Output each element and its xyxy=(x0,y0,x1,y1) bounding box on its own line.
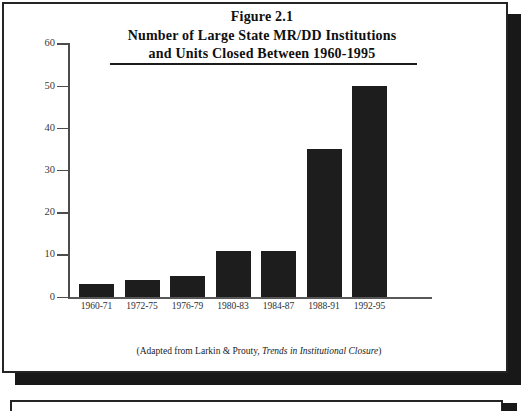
figure-2-2-shadow-corner xyxy=(502,403,517,411)
scanned-document-page: Figure 2.1 Number of Large State MR/DD I… xyxy=(0,0,523,411)
y-tick-60 xyxy=(57,43,69,45)
figure-2-1-frame: Figure 2.1 Number of Large State MR/DD I… xyxy=(2,2,508,373)
bar-1988-91 xyxy=(307,149,342,297)
x-label-1976-79: 1976-79 xyxy=(165,301,211,311)
x-label-1972-75: 1972-75 xyxy=(119,301,165,311)
bar-1992-95 xyxy=(352,86,387,297)
bar-1960-71 xyxy=(79,284,114,297)
caption-italic-title: Trends in Institutional Closure xyxy=(262,346,378,356)
y-tick-label-30: 30 xyxy=(25,164,55,175)
y-tick-10 xyxy=(57,254,69,256)
source-caption: (Adapted from Larkin & Prouty, Trends in… xyxy=(4,346,506,356)
bar-chart: 01020304050601960-711972-751976-791980-8… xyxy=(4,4,506,371)
y-tick-label-20: 20 xyxy=(25,206,55,217)
y-tick-label-40: 40 xyxy=(25,122,55,133)
y-tick-50 xyxy=(57,86,69,88)
x-label-1988-91: 1988-91 xyxy=(301,301,347,311)
caption-suffix: ) xyxy=(378,346,381,356)
x-label-1992-95: 1992-95 xyxy=(347,301,393,311)
y-tick-label-60: 60 xyxy=(25,37,55,48)
caption-prefix: (Adapted from Larkin & Prouty, xyxy=(137,346,263,356)
bar-1972-75 xyxy=(125,280,160,297)
bar-1980-83 xyxy=(216,251,251,297)
y-tick-20 xyxy=(57,212,69,214)
y-tick-0 xyxy=(57,297,69,299)
x-label-1980-83: 1980-83 xyxy=(210,301,256,311)
x-label-1984-87: 1984-87 xyxy=(256,301,302,311)
x-label-1960-71: 1960-71 xyxy=(74,301,120,311)
y-tick-label-50: 50 xyxy=(25,80,55,91)
y-tick-40 xyxy=(57,128,69,130)
y-tick-label-0: 0 xyxy=(25,291,55,302)
y-tick-30 xyxy=(57,170,69,172)
bar-1984-87 xyxy=(261,251,296,297)
y-tick-label-10: 10 xyxy=(25,248,55,259)
x-axis-line xyxy=(68,297,432,299)
bar-1976-79 xyxy=(170,276,205,297)
figure-2-2-frame-top-edge xyxy=(10,400,503,411)
